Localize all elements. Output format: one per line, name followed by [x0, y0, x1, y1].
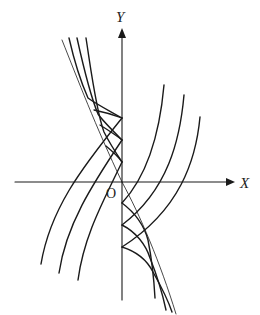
y-axis-arrow-icon	[118, 28, 126, 38]
x-axis-label: X	[240, 176, 249, 191]
upper-left-steep-branches	[69, 38, 122, 162]
x-axis-arrow-icon	[226, 178, 235, 186]
x-axis	[15, 178, 235, 186]
lower-right-curves	[122, 85, 200, 247]
origin-label: O	[106, 187, 116, 201]
y-axis-label: Y	[116, 10, 124, 25]
y-axis	[118, 28, 126, 300]
upper-left-envelope	[62, 40, 122, 182]
curve-family-diagram	[0, 0, 260, 315]
